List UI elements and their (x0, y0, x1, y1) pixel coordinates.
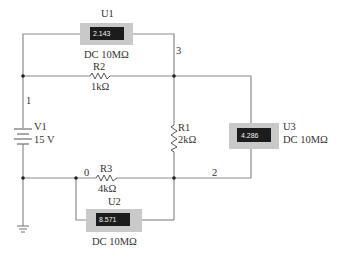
wires (23, 34, 251, 226)
meter-u1[interactable]: 2.143 (80, 23, 133, 45)
junction-node-1 (21, 74, 25, 78)
node-label-1: 1 (26, 95, 31, 106)
r1-name: R1 (178, 122, 190, 133)
node-label-3: 3 (176, 45, 181, 56)
node-label-0: 0 (84, 167, 89, 178)
junction-node-3 (172, 74, 176, 78)
u1-mode: DC 10MΩ (84, 49, 129, 60)
junction-node-0-u2 (74, 176, 78, 180)
meter-u3[interactable]: 4.286 (229, 123, 279, 149)
battery-v1-icon (14, 129, 32, 144)
r3-name: R3 (100, 163, 112, 174)
r3-value: 4kΩ (98, 183, 117, 194)
u3-name: U3 (283, 121, 296, 132)
u1-name: U1 (101, 8, 114, 19)
meter-u2[interactable]: 8.571 (86, 209, 142, 232)
junction-node-2 (172, 176, 176, 180)
u1-reading: 2.143 (93, 30, 111, 37)
u3-mode: DC 10MΩ (283, 134, 328, 145)
resistor-r1-icon (171, 125, 177, 152)
resistor-r3-icon (96, 175, 117, 181)
ground-icon (17, 226, 29, 232)
u2-reading: 8.571 (99, 216, 117, 223)
u2-name: U2 (108, 196, 121, 207)
circuit-schematic: V1 15 V R2 1kΩ R1 2kΩ R3 4kΩ 1 3 2 0 2.1… (0, 0, 338, 258)
r2-value: 1kΩ (91, 81, 110, 92)
junction-node-0-left (21, 176, 25, 180)
node-label-2: 2 (212, 167, 217, 178)
r2-name: R2 (93, 61, 105, 72)
u3-reading: 4.286 (241, 132, 259, 139)
r1-value: 2kΩ (178, 134, 197, 145)
v1-name: V1 (34, 121, 47, 132)
v1-value: 15 V (34, 134, 55, 145)
u2-mode: DC 10MΩ (92, 236, 137, 247)
resistor-r2-icon (90, 73, 110, 79)
